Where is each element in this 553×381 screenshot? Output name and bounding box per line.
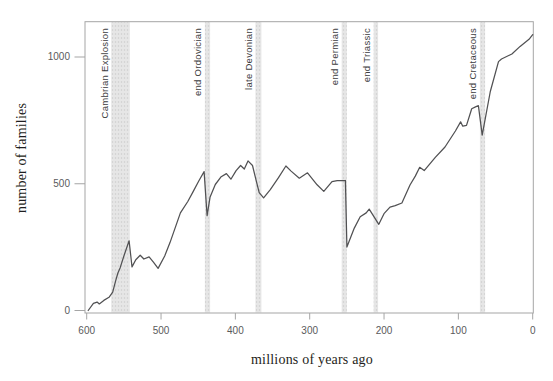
families-curve (88, 35, 533, 311)
event-label-2: late Devonian (243, 28, 254, 90)
event-band-5 (480, 22, 485, 312)
x-tick-label-0: 0 (530, 325, 536, 336)
event-band-1 (205, 22, 210, 312)
event-band-0 (111, 22, 130, 312)
biodiversity-extinction-chart: Cambrian Explosionend Ordovicianlate Dev… (0, 0, 553, 381)
x-axis-title: millions of years ago (88, 352, 536, 368)
x-tick-label-100: 100 (450, 325, 467, 336)
x-tick-label-400: 400 (227, 325, 244, 336)
chart-canvas: Cambrian Explosionend Ordovicianlate Dev… (0, 0, 553, 381)
x-tick-label-300: 300 (301, 325, 318, 336)
x-tick-label-600: 600 (78, 325, 95, 336)
event-band-4 (374, 22, 378, 312)
y-axis-title: number of families (14, 78, 30, 238)
event-band-2 (255, 22, 261, 312)
x-tick-label-200: 200 (376, 325, 393, 336)
event-label-1: end Ordovician (192, 28, 203, 96)
y-tick-label-1000: 1000 (48, 51, 71, 62)
event-band-3 (342, 22, 347, 312)
event-label-3: end Permian (329, 28, 340, 85)
event-label-5: end Cretaceous (467, 28, 478, 99)
y-tick-label-500: 500 (53, 178, 70, 189)
plot-frame (85, 22, 533, 313)
y-tick-label-0: 0 (64, 305, 70, 316)
event-label-4: end Triassic (361, 28, 372, 82)
event-label-0: Cambrian Explosion (99, 28, 110, 118)
x-tick-label-500: 500 (153, 325, 170, 336)
